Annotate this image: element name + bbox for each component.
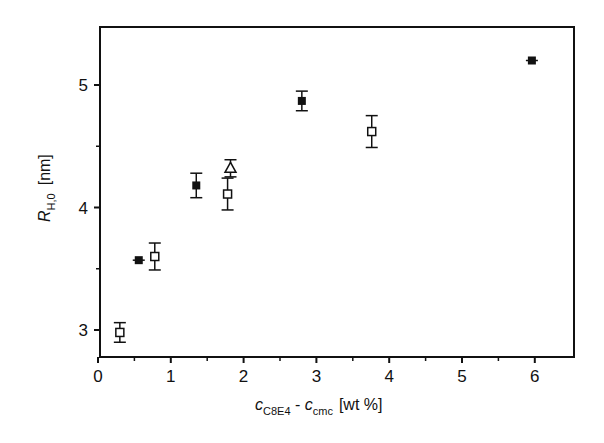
open-square-marker <box>116 328 124 336</box>
filled-square-marker <box>192 181 200 189</box>
plot-border <box>100 27 574 357</box>
data-point-open-square <box>114 323 126 343</box>
x-tick-label: 5 <box>457 367 466 386</box>
x-tick-label: 2 <box>239 367 248 386</box>
data-point-open-square <box>366 116 378 148</box>
x-axis-ticks: 0123456 <box>93 357 539 386</box>
open-triangle-marker <box>225 162 236 172</box>
data-point-filled-square <box>133 256 145 264</box>
open-square-marker <box>368 128 376 136</box>
data-point-open-triangle <box>224 160 236 177</box>
x-axis-label: cC8E4 - ccmc[wt %] <box>255 396 382 417</box>
y-axis-ticks: 345 <box>79 76 100 340</box>
open-square-marker <box>224 190 232 198</box>
data-point-filled-square <box>296 91 308 111</box>
x-tick-label: 0 <box>93 367 102 386</box>
data-points <box>114 57 538 343</box>
y-tick-label: 5 <box>79 76 88 95</box>
scatter-chart: 0123456 345 cC8E4 - ccmc[wt %] RH,0[nm] <box>0 0 604 443</box>
filled-square-marker <box>135 256 143 264</box>
y-tick-label: 4 <box>79 199 88 218</box>
x-tick-label: 3 <box>312 367 321 386</box>
filled-square-marker <box>528 57 536 65</box>
x-tick-label: 4 <box>384 367 393 386</box>
open-square-marker <box>151 253 159 261</box>
y-axis-label: RH,0[nm] <box>36 154 57 222</box>
x-tick-label: 1 <box>166 367 175 386</box>
x-tick-label: 6 <box>530 367 539 386</box>
data-point-filled-square <box>526 57 538 65</box>
y-tick-label: 3 <box>79 321 88 340</box>
data-point-open-square <box>149 243 161 270</box>
data-point-open-square <box>222 178 234 210</box>
data-point-filled-square <box>190 173 202 198</box>
filled-square-marker <box>298 97 306 105</box>
plot-frame <box>100 27 574 357</box>
